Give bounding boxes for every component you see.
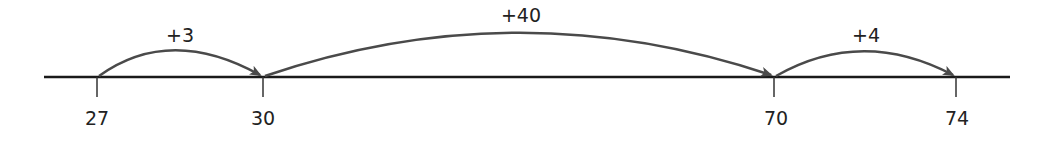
jump-arc-plus-40 [265, 33, 771, 76]
number-line-diagram: 27 30 70 74 +3 +40 +4 [0, 0, 1050, 141]
tick-label-70: 70 [764, 107, 788, 129]
tick-label-74: 74 [945, 107, 969, 129]
tick-label-27: 27 [85, 107, 109, 129]
jump-arc-plus-3 [99, 50, 260, 76]
jump-label-plus-40: +40 [501, 4, 541, 26]
jump-label-plus-4: +4 [852, 24, 880, 46]
jump-label-plus-3: +3 [166, 24, 194, 46]
tick-label-30: 30 [251, 107, 275, 129]
jump-arc-plus-4 [776, 51, 953, 76]
